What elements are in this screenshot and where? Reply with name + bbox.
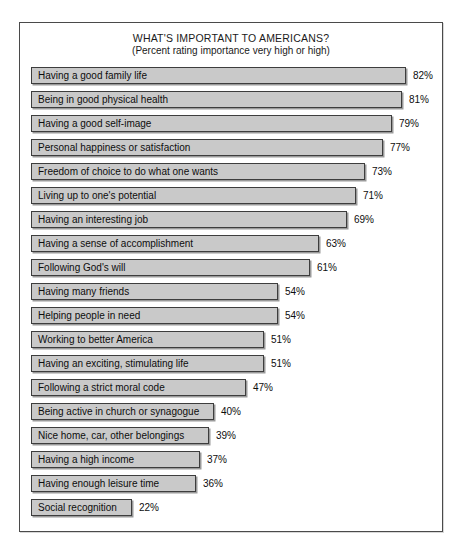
bar: Nice home, car, other belongings	[31, 427, 209, 444]
bar-row: Freedom of choice to do what one wants73…	[31, 163, 442, 187]
bar: Having an interesting job	[31, 211, 347, 228]
bar-value-label: 54%	[285, 307, 305, 324]
bar-row: Nice home, car, other belongings39%	[31, 427, 442, 451]
bar: Having a good self-image	[31, 115, 392, 132]
bar-label: Having many friends	[32, 286, 129, 297]
bar: Having many friends	[31, 283, 278, 300]
bar-row: Living up to one's potential71%	[31, 187, 442, 211]
bar-label: Living up to one's potential	[32, 190, 156, 201]
bar-value-label: 69%	[354, 211, 374, 228]
bar-value-label: 63%	[326, 235, 346, 252]
bar-value-label: 71%	[363, 187, 383, 204]
bar: Freedom of choice to do what one wants	[31, 163, 365, 180]
bar: Having enough leisure time	[31, 475, 196, 492]
bar-row: Having a good self-image79%	[31, 115, 442, 139]
bar-label: Following God's will	[32, 262, 126, 273]
bar-label: Being active in church or synagogue	[32, 406, 199, 417]
bar-label: Helping people in need	[32, 310, 140, 321]
bar-value-label: 82%	[413, 67, 433, 84]
bar-label: Nice home, car, other belongings	[32, 430, 184, 441]
chart-frame: WHAT'S IMPORTANT TO AMERICANS? (Percent …	[19, 22, 443, 532]
bar-value-label: 77%	[390, 139, 410, 156]
bar: Helping people in need	[31, 307, 278, 324]
bar-value-label: 79%	[399, 115, 419, 132]
bar-label: Freedom of choice to do what one wants	[32, 166, 218, 177]
chart-title: WHAT'S IMPORTANT TO AMERICANS?	[20, 32, 442, 45]
bar-row: Being in good physical health81%	[31, 91, 442, 115]
bar-value-label: 47%	[253, 379, 273, 396]
bar-label: Having a good family life	[32, 70, 147, 81]
bar-label: Having a good self-image	[32, 118, 151, 129]
bar: Living up to one's potential	[31, 187, 356, 204]
bar-value-label: 81%	[409, 91, 429, 108]
bar-row: Following God's will61%	[31, 259, 442, 283]
bar-label: Social recognition	[32, 502, 117, 513]
bar-label: Personal happiness or satisfaction	[32, 142, 190, 153]
bar-value-label: 51%	[271, 355, 291, 372]
bar-value-label: 37%	[207, 451, 227, 468]
bar: Having a sense of accomplishment	[31, 235, 319, 252]
bar-label: Having an interesting job	[32, 214, 148, 225]
bar: Following a strict moral code	[31, 379, 246, 396]
bar: Being in good physical health	[31, 91, 402, 108]
bar-row: Having an exciting, stimulating life51%	[31, 355, 442, 379]
bar-value-label: 61%	[317, 259, 337, 276]
bar-row: Being active in church or synagogue40%	[31, 403, 442, 427]
bar-row: Having enough leisure time36%	[31, 475, 442, 499]
bar-label: Working to better America	[32, 334, 153, 345]
bar-row: Having a good family life82%	[31, 67, 442, 91]
bar-value-label: 22%	[139, 499, 159, 516]
bar-row: Social recognition22%	[31, 499, 442, 523]
chart-title-block: WHAT'S IMPORTANT TO AMERICANS? (Percent …	[20, 23, 442, 58]
chart-subtitle: (Percent rating importance very high or …	[20, 45, 442, 58]
bar-value-label: 40%	[221, 403, 241, 420]
bar: Personal happiness or satisfaction	[31, 139, 383, 156]
bar-chart-plot-area: Having a good family life82%Being in goo…	[20, 67, 442, 523]
bar: Having an exciting, stimulating life	[31, 355, 264, 372]
bar-row: Having many friends54%	[31, 283, 442, 307]
bar-value-label: 54%	[285, 283, 305, 300]
bar-value-label: 73%	[372, 163, 392, 180]
bar-row: Having an interesting job69%	[31, 211, 442, 235]
bar: Working to better America	[31, 331, 264, 348]
bar-row: Following a strict moral code47%	[31, 379, 442, 403]
bar: Having a good family life	[31, 67, 406, 84]
bar-label: Having an exciting, stimulating life	[32, 358, 189, 369]
bar-value-label: 36%	[203, 475, 223, 492]
bar: Following God's will	[31, 259, 310, 276]
bar-row: Helping people in need54%	[31, 307, 442, 331]
bar-label: Being in good physical health	[32, 94, 168, 105]
bar-row: Personal happiness or satisfaction77%	[31, 139, 442, 163]
bar-label: Having enough leisure time	[32, 478, 159, 489]
bar: Being active in church or synagogue	[31, 403, 214, 420]
bar-label: Following a strict moral code	[32, 382, 165, 393]
bar-row: Working to better America51%	[31, 331, 442, 355]
bar-value-label: 39%	[216, 427, 236, 444]
bar: Social recognition	[31, 499, 132, 516]
bar-label: Having a high income	[32, 454, 134, 465]
bar-label: Having a sense of accomplishment	[32, 238, 193, 249]
bar: Having a high income	[31, 451, 200, 468]
bar-row: Having a sense of accomplishment63%	[31, 235, 442, 259]
bar-value-label: 51%	[271, 331, 291, 348]
bar-row: Having a high income37%	[31, 451, 442, 475]
